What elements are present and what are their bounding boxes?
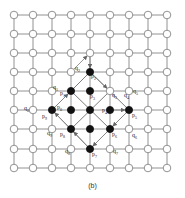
grid-node [163,49,171,57]
grid-nodes [10,11,171,172]
grid-node [163,145,171,153]
grid-node [144,145,152,153]
grid-node [29,49,37,57]
grid-node [144,11,152,19]
grid-node [86,49,94,57]
grid-node [29,106,37,114]
grid-node [163,30,171,38]
active-node [106,106,113,113]
grid-node [106,49,114,57]
grid-node [125,49,133,57]
grid-node [144,68,152,76]
grid-node [163,125,171,133]
grid-node [29,68,37,76]
label-q0: q0 [24,105,29,113]
grid-node [163,11,171,19]
grid-node [163,106,171,114]
label-p5: p5 [132,112,137,120]
grid-node [144,164,152,172]
grid-node [144,87,152,95]
grid-diagram: p0p1p2p3p4p5p6p7p8p9q0q1q2q3q4q5q6q7q8q9 [0,0,185,198]
label-q6: q6 [132,132,137,140]
label-p7: p7 [92,151,97,159]
grid-node [10,30,18,38]
label-q3: q3 [112,92,117,100]
grid-node [67,164,75,172]
label-p6: p6 [112,131,117,139]
grid-node [48,30,56,38]
grid-node [106,164,114,172]
grid-node [29,145,37,153]
grid-node [48,145,56,153]
label-p4: p4 [102,107,107,115]
grid-node [29,30,37,38]
active-node [86,106,93,113]
grid-node [10,87,18,95]
grid-node [86,30,94,38]
grid-node [10,125,18,133]
grid-node [10,164,18,172]
grid-node [163,164,171,172]
grid-node [163,68,171,76]
grid-node [10,145,18,153]
grid-node [125,164,133,172]
label-q2: q2 [75,65,80,73]
grid-node [125,11,133,19]
label-p9: p9 [42,113,47,121]
grid-node [106,11,114,19]
grid-node [67,11,75,19]
active-node [67,106,74,113]
grid-node [125,30,133,38]
grid-node [144,49,152,57]
grid-node [144,125,152,133]
grid-node [144,106,152,114]
node-labels: p0p1p2p3p4p5p6p7p8p9q0q1q2q3q4q5q6q7q8q9 [24,65,138,159]
figure-caption: (b) [0,182,185,189]
label-p2: p2 [91,73,96,81]
grid-node [29,11,37,19]
grid-node [48,68,56,76]
grid-node [48,49,56,57]
grid-node [86,164,94,172]
grid-node [106,30,114,38]
grid-node [67,68,75,76]
grid-node [10,106,18,114]
grid-node [29,164,37,172]
grid-node [48,11,56,19]
grid-node [125,68,133,76]
grid-node [29,125,37,133]
grid-node [29,87,37,95]
grid-node [67,49,75,57]
grid-node [163,87,171,95]
grid-node [48,164,56,172]
label-p3: p3 [90,93,95,101]
grid-node [67,30,75,38]
grid-node [106,68,114,76]
grid-node [125,145,133,153]
active-node [67,125,74,132]
active-node [86,125,93,132]
grid-node [10,68,18,76]
grid-node [144,30,152,38]
active-node [48,106,55,113]
active-node [67,87,74,94]
label-q5: q5 [133,88,138,96]
grid-node [10,49,18,57]
grid-node [86,11,94,19]
grid-node [10,11,18,19]
label-p8: p8 [60,131,65,139]
